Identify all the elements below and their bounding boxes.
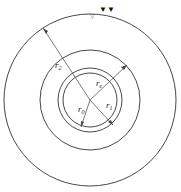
marker-triangles-icon: ▼▼ xyxy=(99,5,115,14)
arrowhead-re xyxy=(121,65,127,70)
radius-r2-line xyxy=(43,28,90,100)
label-re: re xyxy=(96,78,103,89)
label-r0: r0 xyxy=(78,104,85,115)
arrowhead-r2 xyxy=(43,28,48,34)
concentric-radii-diagram: r2 re r0 r1 ▽ ▼▼ xyxy=(0,0,181,192)
label-r1: r1 xyxy=(106,100,113,111)
water-table-icon: ▽ xyxy=(90,13,95,19)
label-r2: r2 xyxy=(55,60,62,71)
